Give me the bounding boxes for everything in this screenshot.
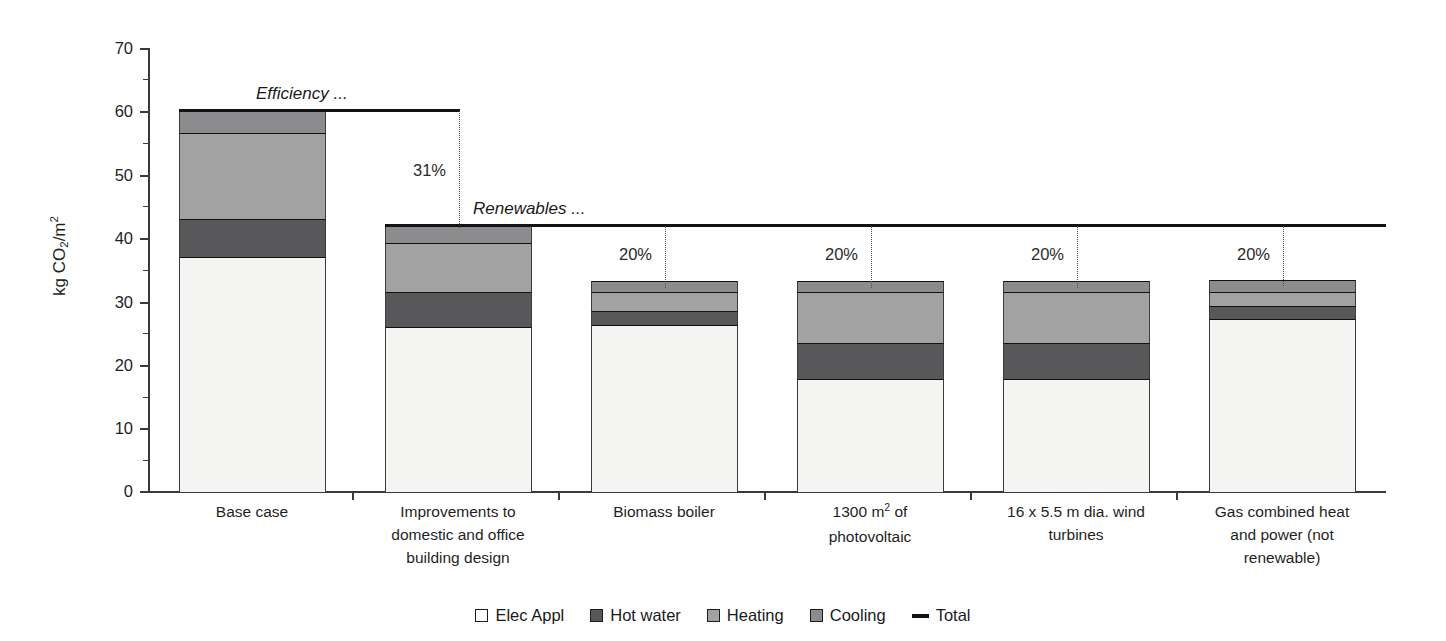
x-label-seg: 1300 m bbox=[833, 503, 885, 520]
pct-label-bar6: 20% bbox=[1237, 245, 1270, 264]
annotation-efficiency: Efficiency ... bbox=[256, 84, 348, 104]
x-label-line: domestic and office bbox=[355, 523, 561, 546]
legend-label: Cooling bbox=[830, 606, 886, 625]
segment-hot-water bbox=[385, 292, 532, 327]
x-label-seg: of bbox=[890, 503, 907, 520]
y-tick-label-70: 70 bbox=[115, 39, 133, 58]
y-tick-minor-35 bbox=[143, 270, 148, 271]
y-tick-minor-45 bbox=[143, 206, 148, 207]
y-tick-minor-5 bbox=[143, 460, 148, 461]
segment-hot-water bbox=[797, 343, 944, 379]
x-label-sup: 2 bbox=[884, 501, 890, 513]
connector-bar4 bbox=[871, 226, 872, 288]
segment-hot-water bbox=[179, 219, 326, 257]
segment-elec-appl bbox=[179, 257, 326, 492]
x-label-line: Gas combined heat bbox=[1179, 500, 1385, 523]
segment-elec-appl bbox=[385, 327, 532, 492]
legend-label: Total bbox=[936, 606, 971, 625]
segment-elec-appl bbox=[1209, 319, 1356, 492]
y-tick-label-30: 30 bbox=[115, 293, 133, 312]
segment-elec-appl bbox=[797, 379, 944, 492]
segment-heating bbox=[797, 292, 944, 343]
legend-label: Hot water bbox=[610, 606, 681, 625]
x-axis-line bbox=[148, 491, 1386, 493]
x-label-line: Base case bbox=[149, 500, 355, 523]
y-tick-minor-25 bbox=[143, 333, 148, 334]
x-label-biomass-boiler: Biomass boiler bbox=[561, 500, 767, 523]
legend-swatch-icon bbox=[707, 609, 720, 622]
y-tick-label-40: 40 bbox=[115, 229, 133, 248]
y-tick-70 bbox=[140, 48, 148, 50]
x-tick-boundary-4 bbox=[970, 491, 972, 500]
legend-line-icon bbox=[912, 614, 929, 618]
y-tick-10 bbox=[140, 428, 148, 430]
segment-heating bbox=[591, 292, 738, 311]
x-label-base-case: Base case bbox=[149, 500, 355, 523]
annotation-renewables: Renewables ... bbox=[473, 199, 585, 219]
segment-hot-water bbox=[591, 311, 738, 325]
legend-item-heating[interactable]: Heating bbox=[707, 606, 784, 625]
x-label-wind-turbines: 16 x 5.5 m dia. wind turbines bbox=[973, 500, 1179, 546]
legend-label: Heating bbox=[727, 606, 784, 625]
x-label-photovoltaic: 1300 m2 of photovoltaic bbox=[767, 500, 973, 548]
x-label-line: building design bbox=[355, 546, 561, 569]
segment-elec-appl bbox=[591, 325, 738, 492]
y-tick-label-0: 0 bbox=[124, 482, 133, 501]
x-tick-boundary-1 bbox=[352, 491, 354, 500]
legend-swatch-icon bbox=[810, 609, 823, 622]
y-tick-label-50: 50 bbox=[115, 166, 133, 185]
x-label-line: Improvements to bbox=[355, 500, 561, 523]
pct-label-bar5: 20% bbox=[1031, 245, 1064, 264]
y-tick-60 bbox=[140, 111, 148, 113]
segment-hot-water bbox=[1003, 343, 1150, 379]
pct-label-bar3: 20% bbox=[619, 245, 652, 264]
y-tick-30 bbox=[140, 302, 148, 304]
x-label-line: renewable) bbox=[1179, 546, 1385, 569]
segment-heating bbox=[385, 243, 532, 292]
pct-label-bar4: 20% bbox=[825, 245, 858, 264]
co2-stacked-bar-chart: kg CO2/m2 70 60 50 40 30 20 10 0 bbox=[0, 0, 1446, 641]
x-label-improvements: Improvements to domestic and office buil… bbox=[355, 500, 561, 569]
y-tick-0 bbox=[140, 491, 148, 493]
x-label-line: turbines bbox=[973, 523, 1179, 546]
legend-item-cooling[interactable]: Cooling bbox=[810, 606, 886, 625]
y-axis-line bbox=[148, 48, 150, 492]
y-tick-label-60: 60 bbox=[115, 102, 133, 121]
y-tick-label-20: 20 bbox=[115, 356, 133, 375]
y-tick-minor-55 bbox=[143, 143, 148, 144]
y-axis-title: kg CO2/m2 bbox=[50, 156, 70, 356]
y-tick-minor-15 bbox=[143, 397, 148, 398]
legend-item-elec-appl[interactable]: Elec Appl bbox=[475, 606, 564, 625]
x-label-line: 1300 m2 of bbox=[767, 500, 973, 525]
legend-label: Elec Appl bbox=[495, 606, 564, 625]
segment-cooling bbox=[179, 111, 326, 133]
x-label-line: photovoltaic bbox=[767, 525, 973, 548]
legend-swatch-icon bbox=[475, 609, 488, 622]
segment-hot-water bbox=[1209, 306, 1356, 319]
x-label-line: Biomass boiler bbox=[561, 500, 767, 523]
x-tick-boundary-2 bbox=[558, 491, 560, 500]
connector-bar5 bbox=[1077, 226, 1078, 288]
x-tick-boundary-5 bbox=[1176, 491, 1178, 500]
connector-bar2 bbox=[459, 111, 460, 228]
y-tick-label-10: 10 bbox=[115, 419, 133, 438]
chart-legend: Elec Appl Hot water Heating Cooling Tota… bbox=[0, 606, 1446, 625]
x-label-line: and power (not bbox=[1179, 523, 1385, 546]
legend-swatch-icon bbox=[590, 609, 603, 622]
y-tick-minor-65 bbox=[143, 79, 148, 80]
x-label-line: 16 x 5.5 m dia. wind bbox=[973, 500, 1179, 523]
y-tick-50 bbox=[140, 175, 148, 177]
connector-bar3 bbox=[665, 226, 666, 288]
legend-item-total[interactable]: Total bbox=[912, 606, 971, 625]
pct-label-bar2: 31% bbox=[413, 161, 446, 180]
total-reference-line-efficiency bbox=[179, 109, 460, 112]
legend-item-hot-water[interactable]: Hot water bbox=[590, 606, 681, 625]
total-reference-line-renewables bbox=[385, 224, 1386, 227]
bar-base-case bbox=[179, 48, 326, 492]
y-tick-40 bbox=[140, 238, 148, 240]
segment-elec-appl bbox=[1003, 379, 1150, 492]
segment-heating bbox=[1209, 292, 1356, 306]
connector-bar6 bbox=[1283, 226, 1284, 286]
segment-heating bbox=[1003, 292, 1150, 343]
x-tick-boundary-3 bbox=[764, 491, 766, 500]
